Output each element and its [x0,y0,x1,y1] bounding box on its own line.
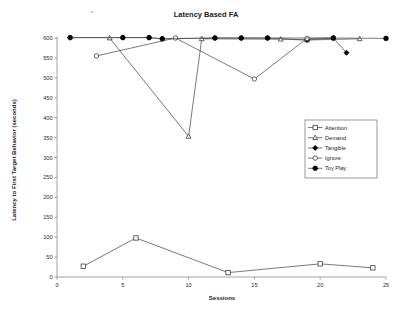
legend-label: Ignore [325,155,341,161]
y-tick-label: 250 [43,174,52,180]
legend-marker [313,166,318,171]
data-point [384,36,389,41]
data-point [252,77,256,81]
x-tick-label: 10 [185,282,191,288]
y-tick-label: 0 [49,274,52,280]
y-tick-label: 300 [43,155,52,161]
chart-legend: AttentionDemandTangibleIgnoreToy Play [305,120,377,178]
data-point [160,36,165,41]
latency-line-chart: Latency Based FA 05010015020025030035040… [0,0,412,317]
legend-item-attention[interactable]: Attention [309,125,348,131]
y-tick-label: 550 [43,55,52,61]
x-tick-label: 0 [55,282,58,288]
legend-label: Toy Play [325,165,346,171]
x-tick-label: 5 [121,282,124,288]
data-point [134,236,138,240]
data-point [226,270,230,274]
y-tick-label: 200 [43,194,52,200]
x-tick-label: 20 [317,282,323,288]
data-point [94,54,98,58]
data-point [305,36,309,40]
data-point [371,266,375,270]
legend-label: Demand [325,135,346,141]
y-tick-label: 100 [43,234,52,240]
y-tick-label: 600 [43,35,52,41]
data-point [121,35,126,40]
y-axis-title: Latency to First Target Behavior (second… [11,99,17,221]
y-tick-label: 50 [46,254,52,260]
data-point [239,36,244,41]
legend-marker [313,125,317,129]
x-axis-title: Sessions [209,295,236,301]
data-point [318,262,322,266]
x-tick-label: 25 [383,282,389,288]
data-point [147,35,152,40]
legend-label: Tangible [325,145,346,151]
legend-marker [313,156,317,160]
data-point [331,36,336,41]
y-tick-label: 150 [43,214,52,220]
chart-figure: Latency Based FA 05010015020025030035040… [0,0,412,317]
legend-item-toy-play[interactable]: Toy Play [309,165,347,171]
scan-speck [91,11,93,13]
y-tick-label: 350 [43,135,52,141]
data-point [213,36,218,41]
legend-label: Attention [325,125,347,131]
chart-title: Latency Based FA [174,10,239,19]
y-tick-label: 450 [43,95,52,101]
y-tick-label: 400 [43,115,52,121]
data-point [173,36,177,40]
y-tick-label: 500 [43,75,52,81]
data-point [265,36,270,41]
x-tick-label: 15 [251,282,257,288]
data-point [68,35,73,40]
data-point [81,264,85,268]
